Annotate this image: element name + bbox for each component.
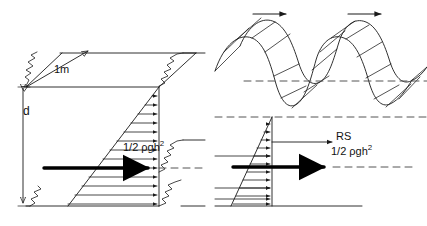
label-left-force-rho: ρgh bbox=[141, 141, 160, 153]
left-break-edge-bottom-left bbox=[30, 186, 41, 206]
right-extended-pressure-arrows bbox=[215, 156, 270, 199]
wave-surface-generator-lines bbox=[215, 18, 427, 108]
label-left-force-exponent: 2 bbox=[160, 139, 164, 148]
left-break-edge-bottom-right bbox=[159, 180, 181, 206]
label-resultant-force-left: 1/2 ρgh2 bbox=[123, 142, 164, 153]
wave-front-profile bbox=[215, 37, 412, 106]
left-break-edge-top-right bbox=[159, 53, 183, 86]
label-right-force-rho: ρgh bbox=[349, 145, 368, 157]
technical-diagram-svg bbox=[0, 0, 427, 226]
left-top-right-slant bbox=[159, 53, 196, 87]
figure-canvas: 1m d 1/2 ρgh2 RS 1/2 ρgh2 bbox=[0, 0, 427, 226]
label-depth-d: d bbox=[23, 105, 30, 117]
right-panel-group bbox=[215, 14, 427, 206]
left-panel-group bbox=[18, 51, 205, 206]
label-left-force-prefix: 1/2 bbox=[123, 141, 141, 153]
label-resultant-force-right: 1/2 ρgh2 bbox=[331, 146, 372, 157]
label-right-force-exponent: 2 bbox=[368, 143, 372, 152]
label-right-force-prefix: 1/2 bbox=[331, 145, 349, 157]
label-width-1m: 1m bbox=[54, 64, 69, 75]
right-pressure-arrows bbox=[233, 124, 270, 204]
right-pressure-triangle-hypotenuse bbox=[231, 117, 272, 206]
left-break-edge-top-left bbox=[25, 52, 37, 86]
label-run-up-rs: RS bbox=[336, 131, 351, 142]
